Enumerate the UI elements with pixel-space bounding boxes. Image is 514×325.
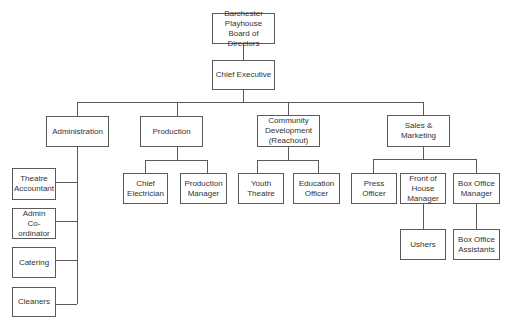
- connector-to-chief-electrician: [145, 160, 146, 173]
- connector-bom-assistants: [476, 203, 477, 229]
- node-press-officer: Press Officer: [351, 173, 397, 204]
- connector-admin-accountant: [55, 182, 77, 183]
- connector-to-community: [288, 102, 289, 115]
- node-board: Barchester Playhouse Board of Directors: [212, 13, 275, 44]
- node-box-office-assistants: Box Office Assistants: [453, 229, 500, 260]
- node-education-officer: Education Officer: [293, 173, 340, 204]
- connector-admin-cleaners: [55, 304, 77, 305]
- node-administration: Administration: [46, 116, 109, 147]
- connector-admin-vertical: [77, 146, 78, 304]
- connector-departments-bar: [77, 102, 424, 103]
- connector-foh-ushers: [423, 203, 424, 229]
- node-sales: Sales & Marketing: [387, 115, 450, 147]
- connector-ceo-down: [243, 89, 244, 103]
- node-chief-executive: Chief Executive: [212, 60, 275, 90]
- node-ushers: Ushers: [400, 229, 446, 260]
- connector-to-sales: [423, 102, 424, 115]
- node-youth-theatre: Youth Theatre: [238, 173, 284, 204]
- connector-to-production: [177, 102, 178, 116]
- connector-to-youth-theatre: [257, 160, 258, 173]
- connector-to-administration: [77, 102, 78, 116]
- org-chart: Barchester Playhouse Board of Directors …: [0, 0, 514, 325]
- connector-to-education-officer: [318, 160, 319, 173]
- connector-to-box-office-manager: [476, 159, 477, 173]
- node-community: Community Development (Reachout): [257, 115, 320, 147]
- connector-sales-down: [423, 146, 424, 159]
- node-admin-coordinator: Admin Co-ordinator: [12, 208, 56, 239]
- connector-community-down: [288, 146, 289, 160]
- connector-to-press-officer: [373, 159, 374, 173]
- node-catering: Catering: [12, 247, 56, 278]
- connector-admin-coordinator: [55, 221, 77, 222]
- node-front-of-house-manager: Front of House Manager: [400, 173, 446, 204]
- node-cleaners: Cleaners: [12, 287, 56, 317]
- connector-production-bar: [145, 160, 208, 161]
- connector-to-production-manager: [207, 160, 208, 173]
- node-box-office-manager: Box Office Manager: [453, 173, 500, 204]
- connector-admin-catering: [55, 260, 77, 261]
- connector-production-down: [177, 146, 178, 160]
- connector-community-bar: [257, 160, 319, 161]
- node-chief-electrician: Chief Electrician: [123, 173, 168, 204]
- node-theatre-accountant: Theatre Accountant: [12, 168, 56, 200]
- node-production: Production: [140, 116, 203, 147]
- node-production-manager: Production Manager: [180, 173, 227, 204]
- connector-sales-bar: [373, 159, 477, 160]
